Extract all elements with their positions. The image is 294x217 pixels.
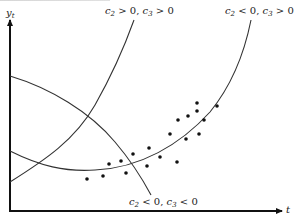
curve-c2-pos-c3-pos [10, 20, 134, 182]
annotation-c2-neg-c3-neg: c2 < 0, c3 < 0 [129, 197, 198, 209]
annotation-c2-pos-c3-pos: c2 > 0, c3 > 0 [105, 6, 174, 18]
x-axis-label: t [286, 205, 290, 215]
y-axis-label: yt [6, 8, 14, 20]
curve-c2-neg-c3-neg [10, 76, 151, 195]
trend-curves-figure: yt t c2 > 0, c3 > 0 c2 < 0, c3 > 0 c2 < … [0, 0, 294, 217]
annotation-c2-neg-c3-pos: c2 < 0, c3 > 0 [225, 6, 294, 18]
chart-plot-area [0, 0, 294, 217]
curve-c2-neg-c3-pos [10, 20, 251, 170]
